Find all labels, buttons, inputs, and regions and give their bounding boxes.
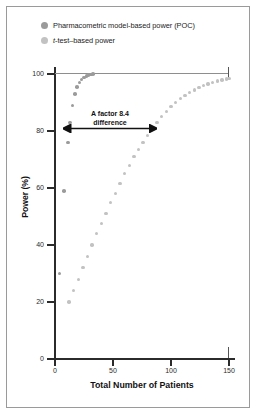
data-point <box>58 272 62 276</box>
x-tick <box>170 358 171 366</box>
data-point <box>77 278 80 281</box>
data-point <box>206 82 209 85</box>
data-point <box>75 85 79 89</box>
data-point <box>104 212 107 215</box>
data-point <box>62 189 66 193</box>
y-tick <box>47 73 55 74</box>
data-point <box>197 86 200 89</box>
data-point <box>90 243 93 246</box>
plot-area: 020406080100 050100150 A factor 8.4 diff… <box>7 7 251 409</box>
double-arrow-icon <box>63 124 157 133</box>
data-point <box>165 110 168 113</box>
y-tick <box>47 301 55 302</box>
data-point <box>118 182 121 185</box>
data-point <box>67 300 70 303</box>
data-point <box>160 115 163 118</box>
y-axis-title: Power (%) <box>20 162 30 232</box>
data-point <box>91 72 95 76</box>
data-point <box>211 81 214 84</box>
data-point <box>114 192 117 195</box>
x-tick-label: 0 <box>43 367 67 374</box>
data-point <box>188 91 191 94</box>
data-point <box>78 81 82 85</box>
y-tick-label: 80 <box>18 127 44 134</box>
factor-annotation-line1: A factor 8.4 <box>91 110 129 117</box>
data-point <box>183 94 186 97</box>
data-point <box>86 255 89 258</box>
data-point <box>128 164 131 167</box>
data-point <box>227 77 230 80</box>
x-axis-line <box>49 358 235 360</box>
data-point <box>220 78 223 81</box>
x-axis-title: Total Number of Patients <box>55 380 229 390</box>
data-point <box>73 92 77 96</box>
data-point <box>66 141 70 145</box>
data-point <box>169 105 172 108</box>
y-tick <box>47 130 55 131</box>
data-point <box>141 141 144 144</box>
x-tick <box>54 358 55 366</box>
data-point <box>216 79 219 82</box>
y-tick-label: 40 <box>18 241 44 248</box>
data-point <box>174 101 177 104</box>
y-axis-line <box>54 67 56 361</box>
data-point <box>146 134 149 137</box>
y-tick-label: 100 <box>18 70 44 77</box>
gridline-top <box>55 73 229 74</box>
data-point <box>71 104 75 108</box>
data-point <box>132 155 135 158</box>
x-tick-label: 50 <box>101 367 125 374</box>
y-tick-label: 0 <box>18 355 44 362</box>
y-tick <box>47 244 55 245</box>
data-point <box>193 88 196 91</box>
data-point <box>72 289 75 292</box>
x-tick-label: 150 <box>217 367 241 374</box>
figure-panel: Pharmacometric model-based power (POC) t… <box>6 6 250 408</box>
data-point <box>179 97 182 100</box>
x-tick <box>112 358 113 366</box>
data-point <box>137 148 140 151</box>
data-point <box>95 232 98 235</box>
data-point <box>100 222 103 225</box>
data-point <box>123 172 126 175</box>
data-point <box>109 201 112 204</box>
data-point <box>202 84 205 87</box>
x-tick <box>228 358 229 366</box>
y-tick-label: 20 <box>18 298 44 305</box>
data-point <box>81 266 84 269</box>
y-tick <box>47 187 55 188</box>
x-tick-label: 100 <box>159 367 183 374</box>
